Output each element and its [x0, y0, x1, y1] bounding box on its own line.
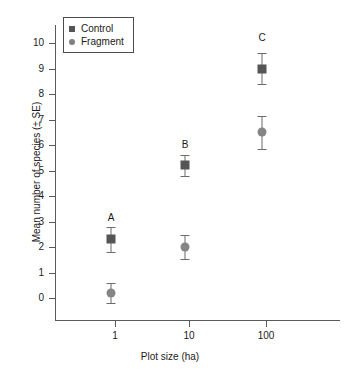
y-axis-tick: [49, 273, 55, 274]
y-axis-tick: [49, 247, 55, 248]
data-point-fragment: [107, 288, 116, 297]
y-axis-tick: [49, 222, 55, 223]
error-bar-cap: [107, 252, 116, 253]
data-point-control: [258, 64, 267, 73]
error-bar-cap: [258, 149, 267, 150]
error-bar-cap: [258, 116, 267, 117]
error-bar-cap: [181, 155, 190, 156]
data-point-control: [181, 161, 190, 170]
error-bar-cap: [107, 303, 116, 304]
legend-label-control: Control: [81, 24, 113, 34]
error-bar-cap: [258, 84, 267, 85]
y-axis-title: Mean number of species (± SE): [32, 57, 42, 287]
y-axis-tick: [49, 94, 55, 95]
y-axis-tick: [49, 196, 55, 197]
y-axis-line: [55, 25, 56, 320]
error-bar-cap: [107, 283, 116, 284]
x-axis-tick: [266, 321, 267, 327]
legend-item-control: Control: [69, 22, 124, 35]
data-point-fragment: [258, 128, 267, 137]
x-axis-line: [55, 320, 340, 321]
error-bar-cap: [181, 176, 190, 177]
fragment-circle-marker-icon: [69, 39, 75, 45]
error-bar-cap: [258, 53, 267, 54]
y-axis-tick: [49, 43, 55, 44]
legend-label-fragment: Fragment: [81, 37, 124, 47]
error-bar-cap: [181, 259, 190, 260]
x-axis-title: Plot size (ha): [55, 352, 285, 362]
error-bar-cap: [107, 227, 116, 228]
error-bar-cap: [181, 235, 190, 236]
x-axis-tick: [115, 321, 116, 327]
data-point-fragment: [181, 243, 190, 252]
y-axis-tick-label: 0: [38, 293, 44, 303]
y-axis-tick: [49, 171, 55, 172]
group-annotation-label: A: [108, 213, 115, 223]
chart-figure: 012345678910 110100 ABC Mean number of s…: [0, 0, 350, 374]
control-square-marker-icon: [69, 26, 75, 32]
y-axis-tick: [49, 69, 55, 70]
data-point-control: [107, 235, 116, 244]
y-axis-tick: [49, 145, 55, 146]
legend: Control Fragment: [63, 17, 134, 53]
x-axis-tick-label: 100: [258, 331, 275, 341]
group-annotation-label: C: [258, 33, 265, 43]
x-axis-tick-label: 1: [112, 331, 118, 341]
legend-item-fragment: Fragment: [69, 35, 124, 48]
y-axis-tick-label: 10: [33, 38, 44, 48]
y-axis-tick: [49, 298, 55, 299]
x-axis-tick-label: 10: [183, 331, 194, 341]
y-axis-tick: [49, 120, 55, 121]
group-annotation-label: B: [182, 140, 189, 150]
x-axis-tick: [189, 321, 190, 327]
